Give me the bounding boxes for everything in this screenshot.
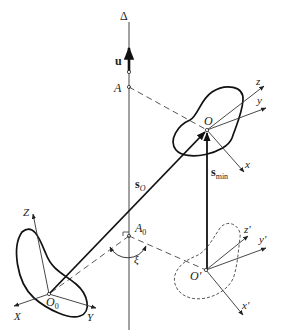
angle-xi-label: ξ <box>134 253 139 266</box>
vector-s-min-label: smin <box>211 165 228 181</box>
frame-O-prime: z' y' x' O' <box>190 223 267 315</box>
axis-label: Δ <box>120 9 128 23</box>
screw-axis-diagram: Δ u A z y x O smin sO <box>0 0 281 336</box>
dashed-A0-to-O0 <box>49 236 129 294</box>
frame-O-prime-z-label: z' <box>243 223 251 235</box>
frame-O0-y-label: Y <box>87 311 95 323</box>
origin-O-label: O <box>204 114 213 128</box>
unit-vector-label: u <box>115 54 122 68</box>
vector-s-O: sO <box>49 132 205 294</box>
point-A-label: A <box>113 81 122 95</box>
unit-vector-u: u <box>115 48 131 74</box>
dashed-A-to-O <box>129 87 207 130</box>
origin-O0-label: O0 <box>46 295 59 311</box>
point-A0-label: A0 <box>134 221 146 237</box>
frame-O: z y x O <box>204 75 266 172</box>
vector-s-O-label: sO <box>135 177 146 193</box>
frame-O-prime-y-label: y' <box>258 233 267 245</box>
frame-O-prime-x-label: x' <box>241 299 250 311</box>
frame-O0-z-label: Z <box>23 206 30 218</box>
frame-O-x-label: x <box>244 158 250 170</box>
frame-O-z-label: z <box>255 75 261 87</box>
point-A0: A0 <box>123 221 146 238</box>
frame-O-y-label: y <box>256 94 262 106</box>
frame-O0-x-label: X <box>13 310 22 322</box>
origin-O-prime-label: O' <box>190 269 202 283</box>
frame-O0: Z X Y O0 <box>13 206 96 323</box>
point-A: A <box>113 81 131 95</box>
angle-xi: ξ <box>110 246 146 266</box>
